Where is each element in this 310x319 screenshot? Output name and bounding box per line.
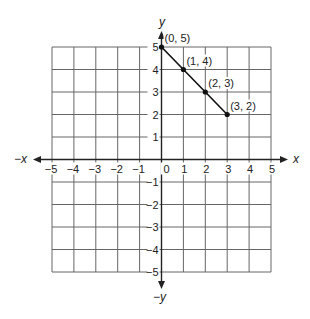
x-tick-label: 4 [247, 163, 253, 175]
y-tick-label: 1 [152, 131, 158, 143]
point-label: (0, 5) [165, 32, 191, 44]
y-neg-axis-label: −y [153, 290, 167, 304]
y-tick-label: −5 [146, 266, 159, 278]
x-axis-arrow-left [33, 156, 41, 163]
x-tick-label: 0 [163, 163, 169, 175]
data-point [159, 44, 164, 49]
x-neg-axis-label: −x [14, 152, 28, 166]
x-tick-label: −1 [132, 163, 145, 175]
y-tick-label: 4 [152, 64, 158, 76]
y-tick-label: −2 [146, 199, 159, 211]
x-tick-label: −2 [110, 163, 123, 175]
x-tick-label: 3 [225, 163, 231, 175]
x-axis-arrow-right [280, 156, 288, 163]
y-tick-label: −3 [146, 221, 159, 233]
data-point [225, 112, 230, 117]
x-tick-label: −4 [67, 163, 80, 175]
data-point [181, 67, 186, 72]
point-label: (3, 2) [230, 100, 256, 112]
x-tick-label: −5 [45, 163, 58, 175]
data-point [203, 89, 208, 94]
x-tick-label: 1 [181, 163, 187, 175]
point-label: (1, 4) [186, 55, 212, 67]
x-axis-label: x [292, 152, 300, 166]
y-tick-label: 2 [152, 109, 158, 121]
y-tick-label: 5 [152, 41, 158, 53]
y-tick-label: −1 [146, 176, 159, 188]
x-tick-label: 2 [203, 163, 209, 175]
y-axis-arrow-down [158, 281, 165, 289]
x-tick-label: −3 [89, 163, 102, 175]
y-axis-label: y [158, 15, 166, 29]
y-tick-label: −4 [146, 244, 159, 256]
coordinate-plane: −5−4−3−2−101234554321−1−2−3−4−5 (0, 5)(1… [0, 0, 310, 319]
x-tick-label: 5 [269, 163, 275, 175]
point-label: (2, 3) [208, 77, 234, 89]
data-series: (0, 5)(1, 4)(2, 3)(3, 2) [159, 32, 259, 117]
y-tick-label: 3 [152, 86, 158, 98]
